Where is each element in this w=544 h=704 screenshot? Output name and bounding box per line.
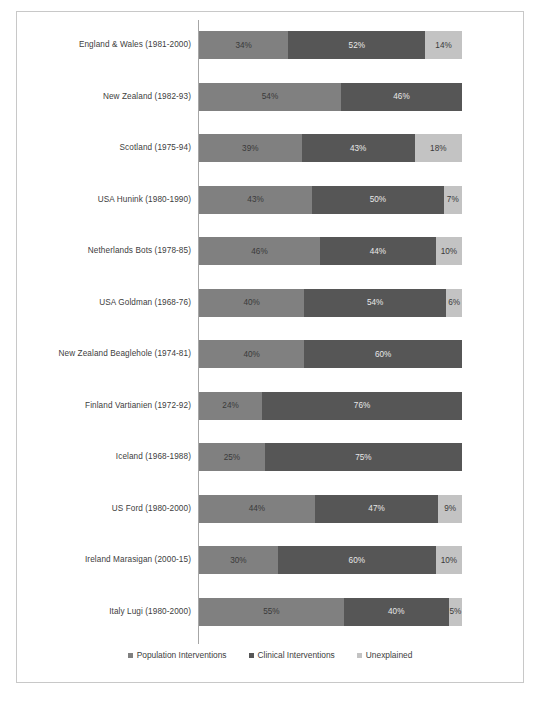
bar-row: USA Hunink (1980-1990)43%50%7%: [17, 186, 523, 214]
category-label: New Zealand Beaglehole (1974-81): [59, 340, 191, 368]
category-label: US Ford (1980-2000): [112, 495, 191, 523]
bar-segment-value: 54%: [367, 298, 383, 307]
bar-track: 34%52%14%: [199, 31, 462, 59]
bar-segment-value: 46%: [393, 92, 409, 101]
category-label: USA Goldman (1968-76): [99, 289, 191, 317]
category-label: New Zealand (1982-93): [103, 83, 191, 111]
legend-label: Clinical Interventions: [258, 650, 335, 660]
bar-segment: 40%: [199, 340, 304, 368]
bar-segment: 25%: [199, 443, 265, 471]
bar-row: Italy Lugi (1980-2000)55%40%5%: [17, 598, 523, 626]
bar-track: 44%47%9%: [199, 495, 462, 523]
bar-segment-value: 6%: [448, 298, 460, 307]
bar-segment: 14%: [425, 31, 462, 59]
bar-segment-value: 44%: [370, 247, 386, 256]
bar-segment-value: 9%: [444, 504, 456, 513]
bar-segment: 52%: [288, 31, 425, 59]
bar-segment: 46%: [341, 83, 462, 111]
category-label: England & Wales (1981-2000): [79, 31, 191, 59]
bar-track: 39%43%18%: [199, 134, 462, 162]
bar-segment: 76%: [262, 392, 462, 420]
bar-segment-value: 10%: [441, 247, 457, 256]
bar-segment: 34%: [199, 31, 288, 59]
bar-row: England & Wales (1981-2000)34%52%14%: [17, 31, 523, 59]
bar-segment: 43%: [199, 186, 312, 214]
bar-segment: 40%: [199, 289, 304, 317]
bar-segment: 10%: [436, 237, 462, 265]
bar-track: 24%76%: [199, 392, 462, 420]
bar-row: Iceland (1968-1988)25%75%: [17, 443, 523, 471]
bar-segment-value: 14%: [435, 41, 451, 50]
bar-segment-value: 60%: [375, 350, 391, 359]
legend-label: Unexplained: [366, 650, 413, 660]
bar-segment-value: 39%: [242, 144, 258, 153]
bar-segment-value: 43%: [247, 195, 263, 204]
bar-segment: 43%: [302, 134, 415, 162]
bar-track: 25%75%: [199, 443, 462, 471]
bar-segment-value: 5%: [449, 607, 461, 616]
legend-swatch-icon: [249, 653, 254, 658]
category-label: Iceland (1968-1988): [116, 443, 191, 471]
legend-label: Population Interventions: [137, 650, 227, 660]
bar-segment-value: 40%: [388, 607, 404, 616]
bar-segment: 39%: [199, 134, 302, 162]
category-label: Netherlands Bots (1978-85): [88, 237, 191, 265]
bar-segment-value: 7%: [447, 195, 459, 204]
bar-segment-value: 75%: [355, 453, 371, 462]
category-label: Ireland Marasigan (2000-15): [85, 546, 191, 574]
category-label: Finland Vartianien (1972-92): [85, 392, 191, 420]
chart-frame: England & Wales (1981-2000)34%52%14%New …: [16, 11, 524, 683]
bar-track: 46%44%10%: [199, 237, 462, 265]
bar-segment-value: 76%: [354, 401, 370, 410]
bar-row: Ireland Marasigan (2000-15)30%60%10%: [17, 546, 523, 574]
bar-row: Finland Vartianien (1972-92)24%76%: [17, 392, 523, 420]
bar-segment: 9%: [438, 495, 462, 523]
bar-segment: 47%: [315, 495, 439, 523]
bar-track: 30%60%10%: [199, 546, 462, 574]
bar-row: Scotland (1975-94)39%43%18%: [17, 134, 523, 162]
category-label: Scotland (1975-94): [120, 134, 191, 162]
bar-segment: 44%: [199, 495, 315, 523]
bar-row: New Zealand Beaglehole (1974-81)40%60%: [17, 340, 523, 368]
bar-row: New Zealand (1982-93)54%46%: [17, 83, 523, 111]
bar-segment-value: 18%: [430, 144, 446, 153]
legend-swatch-icon: [357, 653, 362, 658]
bar-segment-value: 40%: [243, 298, 259, 307]
bar-segment-value: 60%: [349, 556, 365, 565]
bar-segment: 18%: [415, 134, 462, 162]
legend-swatch-icon: [128, 653, 133, 658]
bar-row: Netherlands Bots (1978-85)46%44%10%: [17, 237, 523, 265]
bar-segment: 5%: [449, 598, 462, 626]
bar-segment: 40%: [344, 598, 449, 626]
bar-segment-value: 30%: [230, 556, 246, 565]
bar-segment: 24%: [199, 392, 262, 420]
bar-segment: 75%: [265, 443, 462, 471]
bar-segment: 60%: [278, 546, 436, 574]
bar-segment: 60%: [304, 340, 462, 368]
bar-segment-value: 46%: [251, 247, 267, 256]
legend-item[interactable]: Population Interventions: [128, 650, 227, 660]
bar-segment-value: 40%: [243, 350, 259, 359]
bar-segment-value: 52%: [349, 41, 365, 50]
bar-segment-value: 43%: [350, 144, 366, 153]
legend-item[interactable]: Clinical Interventions: [249, 650, 335, 660]
legend-item[interactable]: Unexplained: [357, 650, 413, 660]
bar-segment: 6%: [446, 289, 462, 317]
bar-segment-value: 10%: [441, 556, 457, 565]
bar-segment-value: 50%: [370, 195, 386, 204]
bar-segment-value: 24%: [222, 401, 238, 410]
bar-segment-value: 25%: [224, 453, 240, 462]
bar-track: 55%40%5%: [199, 598, 462, 626]
bar-segment: 55%: [199, 598, 344, 626]
bar-segment-value: 54%: [262, 92, 278, 101]
bar-segment: 44%: [320, 237, 436, 265]
bar-segment: 50%: [312, 186, 444, 214]
category-label: USA Hunink (1980-1990): [98, 186, 191, 214]
bar-segment-value: 44%: [249, 504, 265, 513]
bar-segment: 10%: [436, 546, 462, 574]
bar-track: 40%54%6%: [199, 289, 462, 317]
bar-segment: 7%: [444, 186, 462, 214]
bar-segment: 54%: [199, 83, 341, 111]
chart-legend: Population InterventionsClinical Interve…: [17, 650, 523, 660]
bar-track: 54%46%: [199, 83, 462, 111]
